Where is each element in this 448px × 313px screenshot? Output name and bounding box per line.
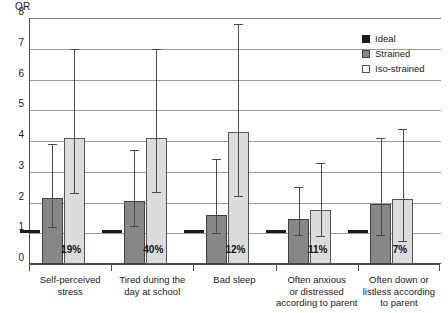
y-tick-label-5: 5	[4, 98, 24, 109]
prevalence-label: 40%	[112, 244, 194, 255]
error-bar	[381, 138, 382, 235]
error-bar-cap-lower	[130, 226, 139, 227]
error-bar	[238, 24, 239, 196]
error-bar-cap-lower	[234, 196, 243, 197]
prevalence-label: 7%	[359, 244, 441, 255]
error-bar	[299, 187, 300, 235]
error-bar	[321, 163, 322, 237]
error-bar-cap-upper	[398, 129, 407, 130]
category-label-line: Bad sleep	[193, 274, 275, 286]
error-bar-cap-lower	[316, 236, 325, 237]
error-bar-cap-upper	[212, 159, 221, 160]
bar-group: 19%	[30, 18, 112, 264]
y-tick-label-0: 0	[4, 252, 24, 263]
legend-label: Ideal	[375, 33, 396, 44]
category-label: Often anxiousor distressedaccording to p…	[276, 274, 358, 309]
error-bar	[134, 150, 135, 225]
y-tick-label-2: 2	[4, 191, 24, 202]
chart-legend: IdealStrainedIso-strained	[362, 31, 425, 76]
legend-swatch-icon	[362, 50, 370, 58]
error-bar	[403, 129, 404, 241]
error-bar	[74, 49, 75, 194]
error-bar-cap-upper	[48, 144, 57, 145]
category-label: Often down orlistless accordingto parent	[358, 274, 440, 309]
error-bar-cap-lower	[152, 192, 161, 193]
error-bar-cap-upper	[152, 49, 161, 50]
legend-item: Ideal	[362, 31, 425, 46]
error-bar-cap-lower	[398, 241, 407, 242]
category-label-line: Often anxious	[276, 274, 358, 286]
y-tick-label-6: 6	[4, 68, 24, 79]
prevalence-label: 12%	[194, 244, 276, 255]
category-label-line: to parent	[358, 297, 440, 309]
category-label: Bad sleep	[193, 274, 275, 286]
category-label-line: Self-perceived	[29, 274, 111, 286]
legend-item: Iso-strained	[362, 61, 425, 76]
category-label-line: Often down or	[358, 274, 440, 286]
y-tick-label-4: 4	[4, 129, 24, 140]
bar-ideal	[102, 230, 122, 233]
error-bar	[52, 144, 53, 227]
category-label-line: listless according	[358, 286, 440, 298]
legend-item: Strained	[362, 46, 425, 61]
error-bar-cap-lower	[48, 227, 57, 228]
y-tick-label-3: 3	[4, 160, 24, 171]
category-label-line: Tired during the	[111, 274, 193, 286]
x-axis-tick	[29, 264, 30, 271]
error-bar-cap-lower	[294, 235, 303, 236]
error-bar	[156, 49, 157, 192]
bar-ideal	[348, 230, 368, 233]
error-bar-cap-lower	[376, 235, 385, 236]
bar-group: 40%	[112, 18, 194, 264]
category-label: Self-perceivedstress	[29, 274, 111, 297]
category-label-line: day at school	[111, 286, 193, 298]
y-tick-label-7: 7	[4, 37, 24, 48]
error-bar-cap-upper	[130, 150, 139, 151]
error-bar-cap-lower	[70, 193, 79, 194]
error-bar-cap-upper	[316, 163, 325, 164]
x-axis-line	[29, 264, 440, 265]
x-axis-tick	[439, 264, 440, 271]
x-axis-tick	[276, 264, 277, 271]
bar-group: 12%	[194, 18, 276, 264]
bar-group: 11%	[277, 18, 359, 264]
error-bar-cap-upper	[294, 187, 303, 188]
legend-swatch-icon	[362, 65, 370, 73]
legend-swatch-icon	[362, 35, 370, 43]
legend-label: Iso-strained	[375, 63, 425, 74]
x-axis-ticks	[29, 264, 440, 271]
x-axis-category-labels: Self-perceivedstressTired during theday …	[29, 274, 440, 313]
error-bar-cap-lower	[212, 233, 221, 234]
y-tick-label-8: 8	[4, 6, 24, 17]
x-axis-tick	[111, 264, 112, 271]
error-bar-cap-upper	[376, 138, 385, 139]
category-label-line: or distressed	[276, 286, 358, 298]
bar-ideal	[266, 230, 286, 233]
prevalence-label: 19%	[30, 244, 112, 255]
bar-ideal	[184, 230, 204, 233]
error-bar-cap-upper	[234, 24, 243, 25]
category-label-line: according to parent	[276, 297, 358, 309]
category-label-line: stress	[29, 286, 111, 298]
legend-label: Strained	[375, 48, 410, 59]
x-axis-tick	[358, 264, 359, 271]
error-bar	[216, 159, 217, 233]
category-label: Tired during theday at school	[111, 274, 193, 297]
grouped-bar-chart: OR 012345678 19%40%12%11%7% Self-perceiv…	[0, 0, 448, 313]
x-axis-tick	[193, 264, 194, 271]
error-bar-cap-upper	[70, 49, 79, 50]
bar-ideal	[20, 230, 40, 233]
prevalence-label: 11%	[277, 244, 359, 255]
